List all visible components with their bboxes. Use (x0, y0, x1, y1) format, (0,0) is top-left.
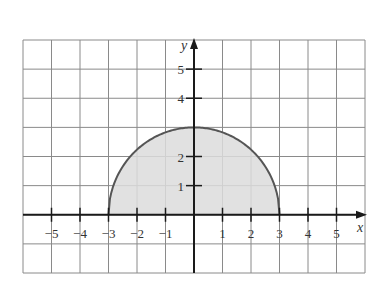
x-tick-label: 2 (248, 226, 255, 241)
y-tick-label: 1 (178, 179, 185, 194)
x-tick-label: −5 (45, 226, 59, 241)
x-axis-label: x (356, 220, 364, 235)
y-tick-label: 4 (178, 91, 185, 106)
x-tick-label: 3 (276, 226, 283, 241)
y-axis-label: y (179, 38, 188, 53)
x-tick-label: 1 (219, 226, 226, 241)
chart: −5−4−3−2−1123451245 x y (0, 0, 385, 301)
y-tick-label: 5 (178, 62, 185, 77)
x-tick-label: −4 (73, 226, 87, 241)
x-tick-label: −1 (159, 226, 173, 241)
x-tick-label: 4 (305, 226, 312, 241)
y-tick-label: 2 (178, 150, 185, 165)
x-tick-label: 5 (333, 226, 340, 241)
x-tick-label: −2 (130, 226, 144, 241)
x-tick-label: −3 (102, 226, 116, 241)
